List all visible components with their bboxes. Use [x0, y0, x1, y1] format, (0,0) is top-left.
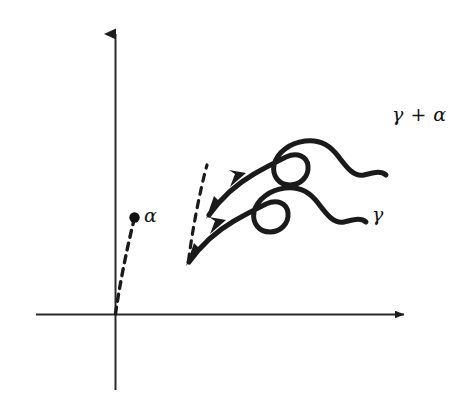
alpha-vector-group	[116, 212, 140, 314]
label-alpha: α	[144, 206, 157, 225]
label-gamma: γ	[372, 205, 384, 224]
alpha-endpoint-dot	[129, 212, 139, 222]
alpha-vector-dashed-line	[116, 222, 134, 314]
axes-group	[36, 34, 404, 390]
figure-canvas: α γ + α γ	[0, 0, 466, 402]
label-gamma-plus-alpha: γ + α	[392, 105, 447, 124]
diagram-svg	[0, 0, 466, 402]
curve-gamma-plus-alpha-group	[206, 141, 386, 219]
